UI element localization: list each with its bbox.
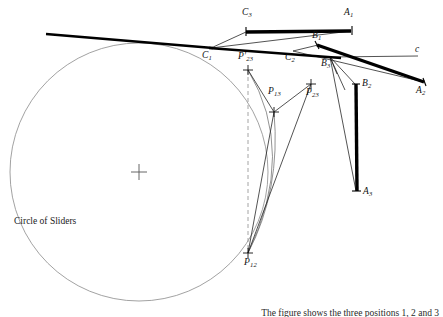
label-B1: A1 (344, 8, 354, 18)
label-line-c: c (415, 45, 419, 55)
marker-P23-prime (243, 65, 253, 75)
circle-of-sliders-label: Circle of Sliders (14, 216, 76, 226)
thin-C3-A3 (330, 57, 355, 84)
link-ground-to-C1 (46, 34, 213, 48)
link-A3-B3 (356, 84, 357, 191)
caption-tail: The figure shows the three positions 1, … (0, 308, 443, 317)
label-A3: B2 (362, 79, 372, 89)
thin-P13-P12 (248, 112, 274, 253)
thin-line-group (211, 31, 424, 253)
label-P12: P12 (244, 258, 257, 268)
thin-C3-to-c (330, 56, 418, 57)
arc-group (248, 70, 275, 253)
label-P23-prime: P′23 (238, 52, 253, 62)
label-P23: P23 (306, 88, 319, 98)
thin-C2-A2 (293, 45, 318, 51)
label-C3: B3 (321, 59, 331, 69)
link-A1-B1 (246, 31, 351, 32)
label-C1: C1 (202, 51, 212, 61)
thin-C3-fan-b (330, 57, 337, 74)
marker-P13 (269, 107, 279, 117)
label-A2: B1 (312, 31, 322, 41)
label-P13: P13 (268, 87, 281, 97)
thin-C1-B1 (211, 31, 351, 48)
thick-link-group (46, 31, 424, 191)
link-C1-along-c (209, 48, 341, 58)
thin-C3-B3 (330, 57, 356, 191)
thin-P23-P12 (248, 84, 311, 253)
label-C2: C2 (285, 53, 295, 63)
label-A1: C3 (242, 8, 252, 18)
label-B2: A2 (416, 86, 426, 96)
circle-center-marker (131, 164, 147, 180)
label-B3: A3 (363, 187, 373, 197)
